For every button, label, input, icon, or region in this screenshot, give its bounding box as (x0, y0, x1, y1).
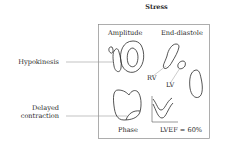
end-diastole-image (163, 44, 202, 98)
rv-label: RV (147, 74, 157, 82)
scan-diagram (0, 0, 225, 146)
end-diastole-label: End-diastole (161, 29, 203, 37)
delayed-annotation-line2: contraction (0, 112, 59, 120)
delayed-annotation-line1: Delayed (0, 104, 59, 112)
lv-label: LV (166, 81, 174, 89)
lv-pointer-line (171, 68, 180, 82)
phase-image (113, 90, 141, 120)
lvef-curve (152, 96, 178, 122)
phase-label: Phase (118, 126, 138, 134)
hypokinesis-annotation: Hypokinesis (0, 58, 59, 66)
amplitude-image (109, 41, 144, 72)
amplitude-label: Amplitude (108, 29, 142, 37)
lvef-label: LVEF = 60% (160, 126, 202, 134)
